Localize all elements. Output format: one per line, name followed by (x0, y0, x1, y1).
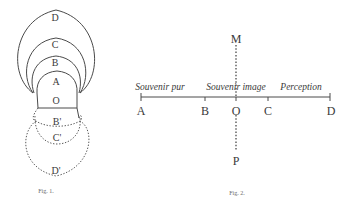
label-D-prime: D' (51, 165, 60, 176)
label-C: C (52, 39, 59, 50)
diagram-canvas: D C B A O B' C' D' Fig. 1. Souvenir pur … (0, 0, 345, 208)
segment-label-souvenir-pur: Souvenir pur (135, 82, 185, 92)
figure-1: D C B A O B' C' D' Fig. 1. (18, 10, 95, 194)
figure-2-caption: Fig. 2. (229, 190, 245, 196)
label-C-prime: C' (53, 132, 62, 143)
figure-2: Souvenir pur Souvenir image Perception A… (135, 32, 335, 196)
point-label-D: D (327, 104, 336, 118)
label-O: O (52, 95, 59, 106)
point-label-P: P (233, 154, 240, 168)
label-A: A (52, 76, 60, 87)
figure-1-caption: Fig. 1. (38, 188, 54, 194)
point-label-O: O (232, 104, 241, 118)
base-O-right-tail (77, 108, 79, 118)
label-D: D (51, 12, 58, 23)
segment-label-souvenir-image: Souvenir image (206, 82, 265, 92)
label-B: B (52, 57, 59, 68)
point-label-M: M (231, 32, 242, 46)
segment-label-perception: Perception (279, 82, 322, 92)
label-B-prime: B' (53, 116, 62, 127)
point-label-C: C (264, 104, 272, 118)
point-label-B: B (201, 104, 209, 118)
point-label-A: A (137, 104, 146, 118)
